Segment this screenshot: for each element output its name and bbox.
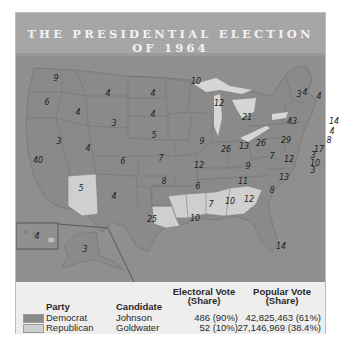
ev-label-vt: 3 [296, 90, 301, 99]
ev-label-nd: 4 [150, 89, 155, 98]
ev-label-az: 5 [78, 184, 83, 193]
header-party: Party [46, 301, 70, 312]
ev-label-wa: 9 [53, 74, 58, 83]
democrat-swatch [23, 314, 44, 323]
ev-label-hi: 4 [34, 232, 39, 241]
ev-label-oh: 26 [256, 139, 266, 148]
ev-label-ca: 40 [33, 156, 43, 165]
ev-label-ut: 4 [85, 144, 90, 153]
ev-label-mo: 12 [194, 161, 204, 170]
title-bar: THE PRESIDENTIAL ELECTION OF 1964 [16, 13, 325, 53]
ev-label-il: 26 [221, 145, 231, 154]
republican-swatch [23, 324, 44, 333]
header-popular-vote: Popular Vote (Share) [253, 287, 311, 305]
ev-label-nv: 3 [56, 137, 61, 146]
ev-label-or: 6 [44, 98, 49, 107]
ev-label-co: 6 [120, 157, 125, 166]
header-candidate: Candidate [116, 301, 162, 312]
election-map-figure: THE PRESIDENTIAL ELECTION OF 1964 [15, 12, 326, 334]
ev-label-al: 10 [225, 197, 235, 206]
ev-label-ga: 12 [244, 195, 254, 204]
ev-label-ne: 5 [151, 131, 156, 140]
ev-label-ky: 9 [245, 162, 250, 171]
row-republican-party: Republican [46, 322, 94, 333]
ev-label-nh: 4 [302, 88, 307, 97]
header-electoral-vote: Electoral Vote (Share) [173, 287, 236, 305]
row-republican-candidate: Goldwater [116, 322, 159, 333]
ev-label-me: 4 [316, 92, 321, 101]
ev-label-nc: 13 [279, 173, 289, 182]
ev-label-ny: 43 [287, 117, 297, 126]
row-republican-electoral: 52 (10%) [199, 322, 238, 333]
header-popular-line2: (Share) [253, 296, 311, 305]
ev-label-ct: 8 [326, 136, 331, 145]
ev-label-ma: 14 [329, 117, 339, 126]
ev-label-wv: 7 [269, 152, 274, 161]
ev-label-mt: 4 [105, 89, 110, 98]
ev-label-pa: 29 [281, 136, 291, 145]
ev-label-ms: 7 [208, 200, 213, 209]
ev-label-sc: 8 [269, 186, 274, 195]
ev-label-mn: 10 [191, 77, 201, 86]
ev-label-va: 12 [284, 155, 294, 164]
ev-label-ar: 6 [195, 182, 200, 191]
ev-label-tn: 11 [238, 177, 248, 186]
ev-label-ri: 4 [329, 127, 334, 136]
ev-label-ia: 9 [199, 137, 204, 146]
ev-label-dc: 3 [310, 166, 315, 175]
ev-label-nm: 4 [111, 192, 116, 201]
ev-label-ks: 7 [158, 154, 163, 163]
ev-label-ak: 3 [82, 245, 87, 254]
ev-label-fl: 14 [276, 242, 286, 251]
header-electoral-line2: (Share) [173, 296, 236, 305]
title-line-1: THE PRESIDENTIAL ELECTION [16, 27, 325, 41]
legend-table: Party Candidate Electoral Vote (Share) P… [16, 282, 325, 334]
title-line-2: OF 1964 [16, 41, 325, 55]
ev-label-sd: 4 [150, 110, 155, 119]
ev-label-tx: 25 [147, 215, 157, 224]
ev-label-la: 10 [190, 214, 200, 223]
ev-label-wi: 12 [214, 99, 224, 108]
ev-label-in: 13 [239, 142, 249, 151]
ev-label-mi: 21 [242, 113, 252, 122]
state-ak [62, 232, 124, 270]
row-republican-popular: 27,146,969 (38.4%) [238, 322, 321, 333]
ev-label-ok: 8 [161, 177, 166, 186]
ev-label-id: 4 [75, 108, 80, 117]
ev-label-wy: 3 [111, 119, 116, 128]
us-map: 9 6 40 4 3 4 3 4 5 6 4 4 4 5 7 8 25 10 9… [16, 56, 325, 282]
